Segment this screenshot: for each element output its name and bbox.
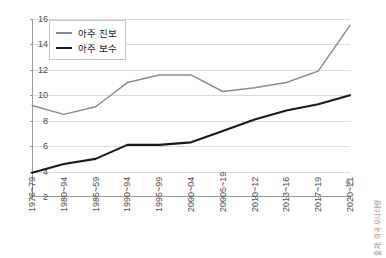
legend-label-progressive: 아주 진보 — [78, 26, 117, 40]
x-tick-label: 2020~21 — [345, 201, 355, 212]
legend-label-conservative: 아주 보수 — [78, 41, 117, 55]
x-tick-label: 20005~19 — [218, 201, 228, 212]
x-tick-label: 1995~99 — [154, 201, 164, 212]
line-chart: 246810121416 아주 진보 아주 보수 1976~791980~941… — [0, 0, 386, 258]
x-tick-label: 2010~12 — [250, 201, 260, 212]
x-tick-label: 2000~04 — [186, 201, 196, 212]
x-tick-mark — [318, 197, 319, 200]
x-tick-mark — [223, 197, 224, 200]
x-axis-unit-label: 년 — [343, 180, 354, 187]
x-tick-mark — [191, 197, 192, 200]
x-tick-label: 1985~59 — [91, 201, 101, 212]
legend-item-conservative: 아주 보수 — [56, 40, 117, 55]
x-tick-mark — [255, 197, 256, 200]
x-tick-mark — [350, 197, 351, 200]
x-tick-label: 1980~94 — [59, 201, 69, 212]
x-tick-mark — [64, 197, 65, 200]
legend-line-swatch-conservative — [56, 47, 72, 49]
x-tick-mark — [159, 197, 160, 200]
x-tick-mark — [127, 197, 128, 200]
x-tick-label: 2017~19 — [313, 201, 323, 212]
x-tick-label: 1990~94 — [122, 201, 132, 212]
legend-line-swatch-progressive — [56, 32, 72, 34]
legend-item-progressive: 아주 진보 — [56, 25, 117, 40]
legend: 아주 진보 아주 보수 — [49, 20, 126, 60]
source-note: 출처: 미국 모니터링 — [372, 200, 382, 256]
x-tick-label: 1976~79 — [27, 201, 37, 212]
x-tick-mark — [32, 197, 33, 200]
series-line — [32, 95, 350, 173]
x-tick-mark — [286, 197, 287, 200]
x-tick-label: 2013~16 — [281, 201, 291, 212]
x-tick-mark — [96, 197, 97, 200]
